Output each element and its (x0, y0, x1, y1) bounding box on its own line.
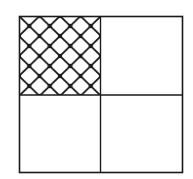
shaded-quadrant-top-left (20, 17, 100, 95)
quartered-square-diagram (0, 0, 193, 179)
